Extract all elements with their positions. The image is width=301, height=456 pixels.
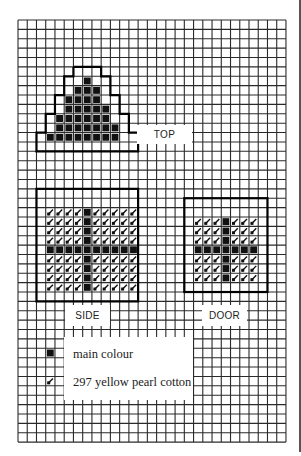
legend-box: main colour 297 yellow pearl cotton <box>64 337 193 400</box>
legend-item-yellow: 297 yellow pearl cotton <box>73 375 191 390</box>
legend-item-main-colour: main colour <box>73 347 133 362</box>
side-label: SIDE <box>65 305 110 326</box>
page-edge-rule <box>299 0 301 452</box>
legend-main-text: main colour <box>73 347 133 361</box>
legend-yellow-text: 297 yellow pearl cotton <box>73 375 191 389</box>
top-label: TOP <box>137 125 192 144</box>
door-label: DOOR <box>202 305 247 326</box>
